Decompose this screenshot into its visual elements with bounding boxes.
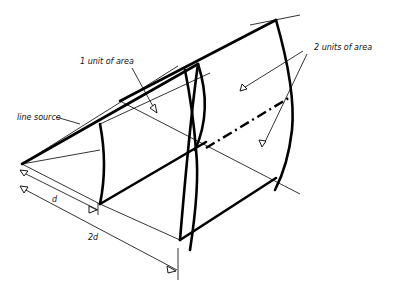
label-two-units: 2 units of area (314, 43, 372, 52)
leader-two-units-b-arrow-icon (259, 140, 266, 147)
label-d: d (52, 195, 58, 204)
label-one-unit: 1 unit of area (80, 57, 134, 66)
label-2d: 2d (88, 233, 99, 242)
construction-line-bottom-a (22, 164, 100, 204)
dimension-d-line (22, 172, 98, 210)
surface-d-left-edge (100, 124, 104, 204)
dimension-2d-start-arrow-icon (20, 186, 28, 193)
dimension-d-end-arrow-icon (89, 206, 97, 213)
label-line-source: line source (17, 113, 61, 122)
leader-two-units-b (264, 54, 307, 144)
leader-one-unit-arrow-icon (150, 104, 157, 113)
centre-axis (206, 96, 292, 148)
leader-two-units-a-arrow-icon (240, 84, 247, 91)
surface-d-bottom (100, 142, 206, 204)
diagram-canvas: 1 unit of area 2 units of area line sour… (0, 0, 394, 295)
construction-line-bottom-b (100, 204, 180, 240)
dimension-d-start-arrow-icon (20, 170, 28, 176)
leader-two-units-a (242, 51, 303, 89)
